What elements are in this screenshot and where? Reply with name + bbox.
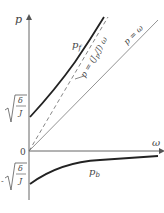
origin-label: 0	[20, 147, 26, 157]
identity-line	[29, 20, 158, 151]
identity-label: p = ω	[122, 23, 145, 46]
svg-text:J: J	[17, 108, 23, 117]
pf-label: pf	[72, 39, 82, 52]
diagram: p ω 0 p = ω p = (Jp/J) ω pf pb δ J - δ J	[0, 0, 164, 213]
pb-label: pb	[89, 166, 100, 179]
svg-text:δ: δ	[18, 96, 23, 105]
svg-text:δ: δ	[18, 164, 23, 173]
upper-tick-label: δ J	[5, 95, 27, 122]
x-axis-label: ω	[152, 137, 160, 148]
y-axis-label: p	[15, 13, 22, 26]
svg-text:-: -	[1, 177, 4, 186]
lower-tick-label: - δ J	[1, 163, 27, 190]
svg-text:J: J	[17, 176, 23, 185]
asymptote-line	[29, 17, 108, 151]
